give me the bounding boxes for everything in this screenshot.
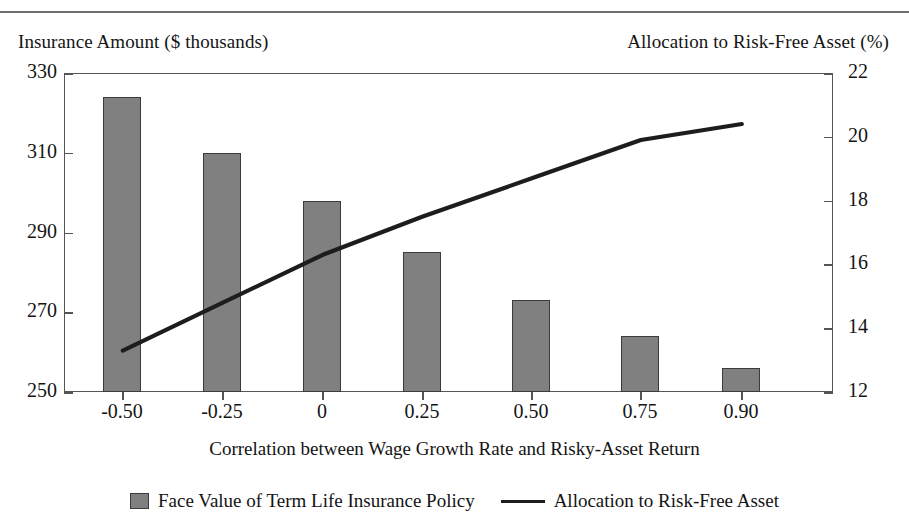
- right-axis-tick-18: [824, 201, 833, 203]
- x-axis-tick-1: [222, 392, 224, 400]
- left-axis-label-290: 290: [27, 220, 57, 243]
- right-axis-label-20: 20: [848, 124, 868, 147]
- bar-corr-0.90: [722, 368, 760, 392]
- bar-corr--0.50: [103, 97, 141, 392]
- bar-corr--0.25: [203, 153, 241, 392]
- legend-item-bars: Face Value of Term Life Insurance Policy: [130, 490, 475, 512]
- x-axis-label-5: 0.75: [623, 400, 658, 423]
- x-axis-tick-5: [640, 392, 642, 400]
- left-axis-label-270: 270: [27, 299, 57, 322]
- left-axis-label-330: 330: [27, 60, 57, 83]
- legend-label-line: Allocation to Risk-Free Asset: [554, 490, 779, 512]
- bar-corr-0: [303, 201, 341, 392]
- left-axis-tick-270: [64, 312, 73, 314]
- right-axis-tick-22: [824, 73, 833, 75]
- chart-legend: Face Value of Term Life Insurance Policy…: [0, 490, 909, 512]
- right-axis-label-22: 22: [848, 60, 868, 83]
- left-axis-tick-250: [64, 392, 73, 394]
- x-axis-label-2: 0: [317, 400, 327, 423]
- left-axis-label-250: 250: [27, 379, 57, 402]
- right-axis-tick-14: [824, 328, 833, 330]
- left-axis-tick-310: [64, 153, 73, 155]
- line-swatch-icon: [501, 500, 545, 503]
- right-axis-label-18: 18: [848, 188, 868, 211]
- legend-label-bars: Face Value of Term Life Insurance Policy: [158, 490, 475, 512]
- bar-swatch-icon: [130, 493, 149, 509]
- figure-page: Insurance Amount ($ thousands) Allocatio…: [0, 0, 909, 531]
- x-axis-label-6: 0.90: [724, 400, 759, 423]
- right-axis-label-12: 12: [848, 379, 868, 402]
- x-axis-tick-0: [122, 392, 124, 400]
- x-axis-tick-3: [422, 392, 424, 400]
- bar-corr-0.50: [512, 300, 550, 392]
- x-axis-label-0: -0.50: [101, 400, 143, 423]
- left-axis-tick-330: [64, 73, 73, 75]
- x-axis-tick-6: [741, 392, 743, 400]
- legend-item-line: Allocation to Risk-Free Asset: [501, 490, 779, 512]
- left-axis-label-310: 310: [27, 140, 57, 163]
- right-axis-label-14: 14: [848, 315, 868, 338]
- x-axis-tick-4: [531, 392, 533, 400]
- right-axis-label-16: 16: [848, 251, 868, 274]
- right-axis-tick-12: [824, 392, 833, 394]
- right-axis-tick-16: [824, 264, 833, 266]
- plot-area: 330 310 290 270 250 22 20 18 16 14 12: [0, 0, 909, 531]
- x-axis-label-3: 0.25: [405, 400, 440, 423]
- x-axis-label-4: 0.50: [514, 400, 549, 423]
- right-axis-tick-20: [824, 137, 833, 139]
- plot-frame: [64, 73, 833, 392]
- x-axis-label-1: -0.25: [201, 400, 243, 423]
- left-axis-tick-290: [64, 233, 73, 235]
- bar-corr-0.75: [621, 336, 659, 392]
- bar-corr-0.25: [403, 252, 441, 392]
- x-axis-tick-2: [322, 392, 324, 400]
- x-axis-title: Correlation between Wage Growth Rate and…: [0, 438, 909, 460]
